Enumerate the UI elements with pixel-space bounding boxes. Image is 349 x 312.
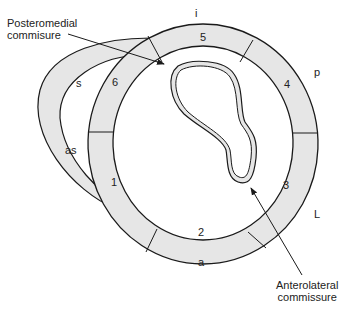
label-anteroseptal: as bbox=[65, 144, 77, 156]
label-septal: s bbox=[76, 77, 82, 89]
anterolateral-line2: commissure bbox=[276, 291, 338, 303]
posteromedial-line2: commisure bbox=[7, 29, 77, 41]
anterolateral-callout: Anterolateral commissure bbox=[276, 279, 338, 303]
anterolateral-line1: Anterolateral bbox=[276, 279, 338, 291]
posteromedial-line1: Posteromedial bbox=[7, 17, 77, 29]
segment-3-label: 3 bbox=[283, 179, 289, 191]
segment-2-label: 2 bbox=[198, 226, 204, 238]
segment-4-label: 4 bbox=[284, 78, 290, 90]
label-posterior: p bbox=[314, 66, 320, 78]
heart-cross-section-diagram bbox=[0, 0, 349, 312]
segment-6-label: 6 bbox=[112, 76, 118, 88]
label-anterior: a bbox=[198, 256, 204, 268]
segment-1-label: 1 bbox=[111, 176, 117, 188]
posteromedial-callout: Posteromedial commisure bbox=[7, 17, 77, 41]
segment-5-label: 5 bbox=[200, 31, 206, 43]
label-lateral: L bbox=[314, 208, 320, 220]
mitral-valve bbox=[171, 61, 256, 183]
label-inferior: i bbox=[195, 7, 197, 19]
